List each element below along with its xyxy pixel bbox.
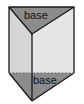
prism-diagram: base base [0,0,84,104]
top-base-label: base [24,9,48,21]
bottom-base-label: base [33,74,57,86]
